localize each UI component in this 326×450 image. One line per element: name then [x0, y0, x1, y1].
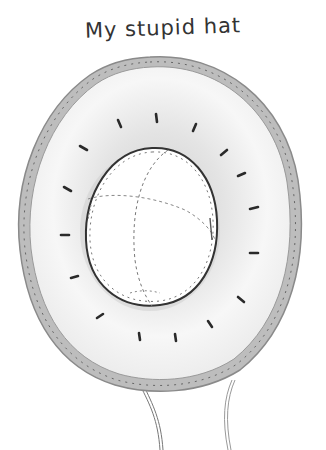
hat-illustration: [0, 0, 326, 450]
